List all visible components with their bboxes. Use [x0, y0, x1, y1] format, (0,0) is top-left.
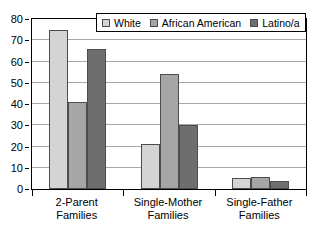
y-axis-tick-label: 40: [11, 99, 23, 110]
legend-item-label: Latino/a: [262, 17, 299, 29]
legend-swatch-icon: [150, 19, 158, 27]
legend-item[interactable]: African American: [150, 17, 241, 29]
x-axis-category-label-line: Families: [214, 209, 305, 222]
x-axis-category-label: Single-MotherFamilies: [122, 196, 213, 222]
y-axis-tick-label: 20: [11, 141, 23, 152]
x-axis-category-label-line: 2-Parent: [31, 196, 122, 209]
y-axis-tick-mark: [25, 40, 29, 41]
y-axis-tick-mark: [25, 19, 29, 20]
bar: [49, 30, 68, 189]
y-axis-tick-mark: [25, 62, 29, 63]
bar-chart: 01020304050607080 2-ParentFamiliesSingle…: [0, 0, 315, 235]
legend-item-label: African American: [162, 17, 241, 29]
x-axis-category-label: Single-FatherFamilies: [214, 196, 305, 222]
bar-group: [232, 19, 289, 189]
legend-swatch-icon: [250, 19, 258, 27]
x-axis-category-label-line: Families: [122, 209, 213, 222]
y-axis-tick-mark: [25, 125, 29, 126]
y-axis-tick-mark: [25, 189, 29, 190]
bar: [141, 144, 160, 189]
legend-swatch-icon: [102, 19, 110, 27]
chart-legend: WhiteAfrican AmericanLatino/a: [96, 13, 306, 32]
y-axis-tick-mark: [25, 104, 29, 105]
x-axis-category-label: 2-ParentFamilies: [31, 196, 122, 222]
x-axis-category-label-line: Families: [31, 209, 122, 222]
y-axis-tick-label: 10: [11, 162, 23, 173]
bar: [160, 74, 179, 189]
y-axis-tick-label: 80: [11, 14, 23, 25]
bar-group: [49, 19, 106, 189]
y-axis-tick-label: 60: [11, 56, 23, 67]
bar: [251, 177, 270, 189]
y-axis-tick-label: 50: [11, 77, 23, 88]
y-axis-tick-label: 30: [11, 120, 23, 131]
y-axis-tick-label: 0: [17, 184, 23, 195]
legend-item[interactable]: Latino/a: [250, 17, 299, 29]
bars-layer: [32, 19, 306, 189]
legend-item-label: White: [114, 17, 141, 29]
y-axis-tick-mark: [25, 147, 29, 148]
x-axis-labels: 2-ParentFamiliesSingle-MotherFamiliesSin…: [31, 196, 307, 230]
bar: [87, 49, 106, 189]
y-axis-tick-mark: [25, 168, 29, 169]
bar: [68, 102, 87, 189]
bar: [232, 178, 251, 189]
bar: [270, 181, 289, 190]
x-axis-category-label-line: Single-Father: [214, 196, 305, 209]
x-axis-category-label-line: Single-Mother: [122, 196, 213, 209]
y-axis-tick-label: 70: [11, 35, 23, 46]
y-axis: 01020304050607080: [0, 18, 29, 190]
legend-item[interactable]: White: [102, 17, 141, 29]
y-axis-tick-mark: [25, 83, 29, 84]
bar: [179, 125, 198, 189]
bar-group: [141, 19, 198, 189]
